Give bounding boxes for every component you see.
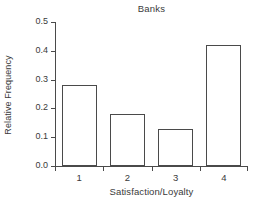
bar xyxy=(62,85,97,166)
y-tick-label: 0.2 xyxy=(35,102,48,113)
y-axis-label-container: Relative Frequency xyxy=(0,22,16,167)
bar xyxy=(206,45,241,166)
x-tick xyxy=(103,167,104,171)
x-tick-label: 2 xyxy=(125,172,130,183)
y-tick: 0.4 xyxy=(51,51,55,52)
x-tick xyxy=(247,167,248,171)
y-tick: 0.2 xyxy=(51,108,55,109)
bar-chart: Banks Relative Frequency 0.00.10.20.30.4… xyxy=(0,0,265,209)
y-tick-label: 0.3 xyxy=(35,74,48,85)
x-tick-label: 3 xyxy=(173,172,178,183)
chart-title: Banks xyxy=(55,3,248,14)
x-tick xyxy=(200,167,201,171)
y-tick-label: 0.4 xyxy=(35,45,48,56)
y-tick: 0.5 xyxy=(51,22,55,23)
bar xyxy=(158,129,193,166)
y-tick: 0.1 xyxy=(51,137,55,138)
x-tick-label: 1 xyxy=(76,172,81,183)
y-axis-label: Relative Frequency xyxy=(3,55,13,134)
x-tick xyxy=(55,167,56,171)
y-tick: 0.3 xyxy=(51,80,55,81)
plot-area: 0.00.10.20.30.40.5 1234 xyxy=(55,22,248,167)
x-axis-label: Satisfaction/Loyalty xyxy=(55,186,248,197)
x-tick-label: 4 xyxy=(221,172,226,183)
y-axis-spine xyxy=(55,22,56,167)
y-tick-label: 0.5 xyxy=(35,16,48,27)
y-tick-label: 0.1 xyxy=(35,131,48,142)
x-tick xyxy=(152,167,153,171)
y-tick-label: 0.0 xyxy=(35,160,48,171)
bar xyxy=(110,114,145,166)
